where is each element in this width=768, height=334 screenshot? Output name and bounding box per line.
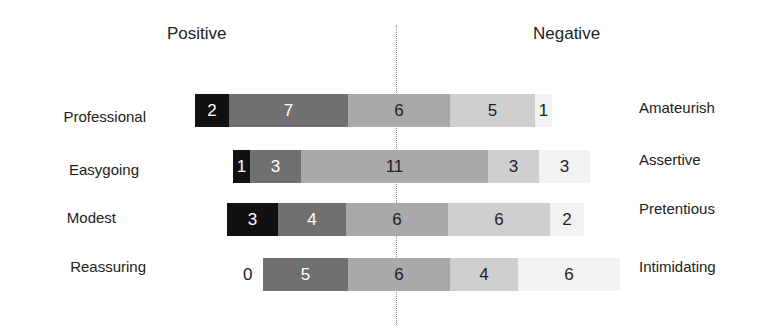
right-label: Pretentious (639, 200, 715, 217)
right-label: Assertive (639, 151, 701, 168)
bar-segment: 6 (348, 258, 450, 291)
bar-segment: 1 (535, 94, 552, 127)
bar-segment: 2 (550, 203, 584, 236)
segment-value-zero: 0 (243, 265, 252, 285)
bar-segment: 4 (278, 203, 346, 236)
bar-segment: 3 (227, 203, 278, 236)
left-label: Easygoing (0, 161, 139, 178)
negative-header: Negative (533, 24, 600, 44)
right-label: Intimidating (639, 258, 716, 275)
right-label: Amateurish (639, 99, 715, 116)
bar-segment: 3 (539, 150, 590, 183)
left-label: Reassuring (0, 258, 146, 275)
bar-segment: 6 (348, 94, 450, 127)
bar-segment: 6 (346, 203, 448, 236)
bar-segment: 3 (488, 150, 539, 183)
bar-segment: 5 (263, 258, 348, 291)
bar-segment: 3 (250, 150, 301, 183)
bar-segment: 5 (450, 94, 535, 127)
left-label: Professional (0, 108, 146, 125)
bar-segment: 4 (450, 258, 518, 291)
bar-segment: 1 (233, 150, 250, 183)
bar-segment: 11 (301, 150, 488, 183)
bar-segment: 6 (448, 203, 550, 236)
left-label: Modest (0, 209, 116, 226)
stacked-bar: 34662 (227, 203, 584, 236)
bar-segment: 2 (195, 94, 229, 127)
bar-segment: 6 (518, 258, 620, 291)
stacked-bar: 5646 (263, 258, 620, 291)
positive-header: Positive (167, 24, 227, 44)
stacked-bar: 131133 (233, 150, 590, 183)
stacked-bar: 27651 (195, 94, 552, 127)
bar-segment: 7 (229, 94, 348, 127)
